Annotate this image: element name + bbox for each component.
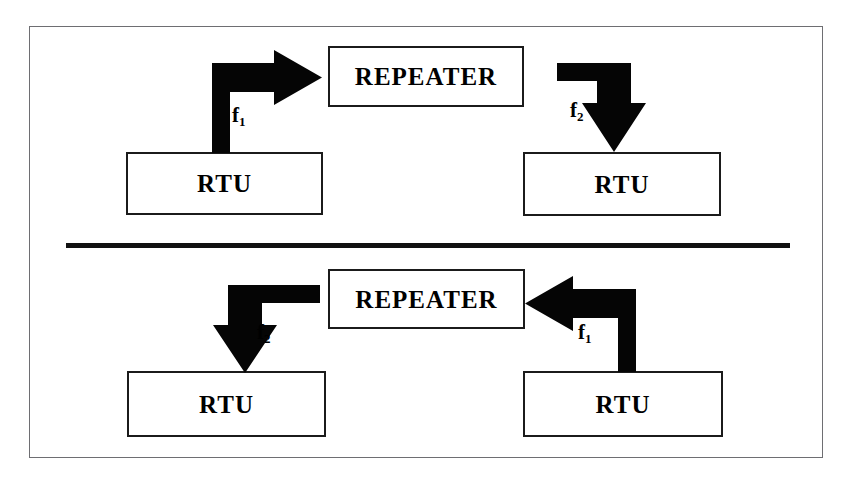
- frequency-label-f1-bottom: f1: [578, 322, 592, 343]
- rtu-box-top-right: RTU: [523, 152, 721, 216]
- section-divider: [66, 243, 790, 248]
- repeater-box-bottom: REPEATER: [328, 269, 525, 329]
- frequency-symbol: f: [232, 103, 239, 127]
- frequency-label-f2-top: f2: [570, 100, 584, 121]
- frequency-subscript: 1: [239, 114, 246, 129]
- rtu-label-bottom-right: RTU: [596, 392, 651, 417]
- rtu-label-bottom-left: RTU: [199, 392, 254, 417]
- frequency-label-f1-top: f1: [232, 105, 246, 126]
- rtu-label-top-left: RTU: [197, 171, 252, 196]
- repeater-label-top: REPEATER: [355, 64, 497, 89]
- frequency-symbol: f: [578, 320, 585, 344]
- rtu-label-top-right: RTU: [595, 172, 650, 197]
- repeater-label-bottom: REPEATER: [355, 287, 497, 312]
- frequency-symbol: f: [257, 320, 264, 344]
- rtu-box-bottom-left: RTU: [127, 371, 326, 437]
- repeater-box-top: REPEATER: [328, 46, 524, 107]
- frequency-subscript: 1: [585, 331, 592, 346]
- frequency-label-f2-bottom: f2: [257, 322, 271, 343]
- rtu-box-top-left: RTU: [126, 152, 323, 215]
- diagram-root: REPEATER RTU RTU REPEATER RTU RTU f1: [0, 0, 849, 485]
- frequency-subscript: 2: [264, 331, 271, 346]
- rtu-box-bottom-right: RTU: [523, 371, 723, 437]
- frequency-symbol: f: [570, 98, 577, 122]
- frequency-subscript: 2: [577, 109, 584, 124]
